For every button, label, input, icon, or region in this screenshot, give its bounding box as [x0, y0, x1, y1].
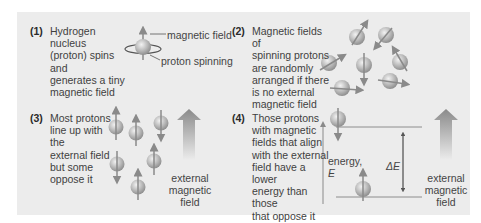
caption-line: line up with the	[50, 124, 120, 148]
delta-e-label: ΔE	[386, 160, 400, 172]
energy-label: energy, E	[328, 155, 362, 179]
caption-line: oppose it	[50, 173, 120, 185]
caption-line: field have a lower	[252, 161, 332, 185]
panel-3-number: (3)	[30, 112, 43, 124]
caption-line: Hydrogen nucleus	[50, 25, 130, 49]
random-protons-icon	[320, 23, 408, 96]
caption-line: but some	[50, 161, 120, 173]
label-line: magnetic	[424, 184, 468, 196]
label-line: field	[424, 196, 468, 208]
caption-line: are randomly	[252, 62, 332, 74]
caption-line: Those protons	[252, 112, 332, 124]
caption-line: magnetic field	[50, 86, 130, 98]
caption-line: arranged if there	[252, 74, 332, 86]
external-field-label: external magnetic field	[168, 172, 212, 208]
label-line: energy,	[328, 155, 362, 167]
label-line: field	[168, 196, 212, 208]
proton-spinning-label: proton spinning	[161, 55, 233, 67]
label-line: external	[424, 172, 468, 184]
caption-line: Most protons	[50, 112, 120, 124]
caption-line: magnetic field	[252, 98, 332, 110]
caption-line: (proton) spins and	[50, 49, 130, 73]
caption-line: fields that align	[252, 136, 332, 148]
caption-line: spinning protons	[252, 49, 332, 61]
external-field-arrow-icon	[177, 109, 201, 160]
caption-line: with magnetic	[252, 124, 332, 136]
panel-4-number: (4)	[232, 112, 245, 124]
external-field-label: external magnetic field	[424, 172, 468, 208]
label-line: external	[168, 172, 212, 184]
caption-line: external field	[50, 149, 120, 161]
caption-line: energy than those	[252, 185, 332, 209]
label-line: E	[328, 167, 362, 179]
caption-line: Magnetic fields of	[252, 25, 332, 49]
panel-1-number: (1)	[30, 25, 43, 37]
caption-line: with the external	[252, 149, 332, 161]
label-line: magnetic	[168, 184, 212, 196]
caption-line: is no external	[252, 86, 332, 98]
caption-line: that oppose it	[252, 210, 332, 222]
panel-2-number: (2)	[232, 25, 245, 37]
caption-line: generates a tiny	[50, 74, 130, 86]
proton-spinning-icon	[125, 30, 166, 60]
magnetic-field-label: magnetic field	[167, 29, 232, 41]
